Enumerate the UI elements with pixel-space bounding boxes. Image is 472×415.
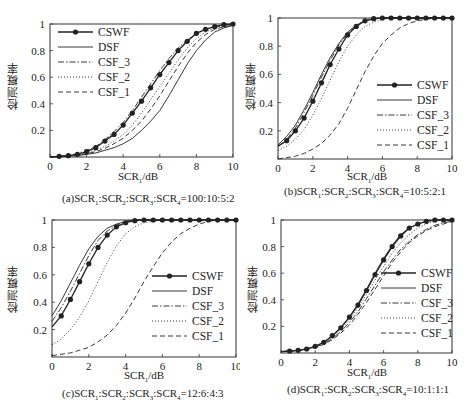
caption-text: =100:10:5:2 <box>181 192 235 204</box>
y-tick-label: 0.6 <box>259 68 273 80</box>
marker-dot <box>121 122 126 127</box>
legend-label: CSWF <box>98 26 129 38</box>
legend: CSWFDSFCSF_3CSF_2CSF_1 <box>377 79 449 151</box>
y-tick-label: 0.8 <box>31 45 45 57</box>
legend-marker <box>392 82 397 87</box>
marker-dot <box>302 116 307 121</box>
y-tick-label: 0.6 <box>33 269 47 281</box>
caption-text: :SCR <box>126 387 150 399</box>
marker-dot <box>215 217 220 222</box>
y-tick-label: 0.4 <box>262 294 276 306</box>
series-cswf <box>50 24 233 157</box>
caption-text: :SCR <box>376 185 400 197</box>
marker-dot <box>415 15 420 20</box>
x-axis-label-b: SCR1/dB <box>347 170 387 185</box>
x-tick-label: 0 <box>275 162 281 174</box>
y-tick-label: 0.2 <box>33 324 47 336</box>
x-tick-label: 8 <box>415 356 421 368</box>
caption-b: (b)SCR1:SCR2:SCR3:SCR4=10:5:2:1 <box>284 185 446 200</box>
legend-label: CSF_2 <box>421 312 453 324</box>
series-csf-1 <box>50 25 233 157</box>
marker-dot <box>449 217 454 222</box>
legend-label: DSF <box>192 285 213 297</box>
caption-text: :SCR <box>153 387 177 399</box>
y-tick-label: 0.6 <box>31 71 45 83</box>
marker-dot <box>390 244 395 249</box>
legend-label: CSF_3 <box>192 300 224 312</box>
marker-dot <box>310 99 315 104</box>
marker-dot <box>233 217 238 222</box>
x-tick-label: 0 <box>49 360 55 372</box>
marker-dot <box>93 145 98 150</box>
x-tick-label: 2 <box>312 356 318 368</box>
marker-dot <box>224 217 229 222</box>
marker-dot <box>372 272 377 277</box>
x-tick-label: 8 <box>196 360 202 372</box>
marker-dot <box>187 217 192 222</box>
series-csf-2 <box>50 24 233 157</box>
marker-dot <box>347 314 352 319</box>
marker-dot <box>380 15 385 20</box>
legend-marker <box>73 29 78 34</box>
x-axis-label-c: SCR1/dB <box>124 369 164 384</box>
marker-dot <box>230 21 235 26</box>
marker-dot <box>284 138 289 143</box>
marker-dot <box>206 217 211 222</box>
caption-c: (c)SCR1:SCR2:SCR3:SCR4=12:6:4:3 <box>62 387 223 402</box>
series-dsf <box>50 25 233 157</box>
marker-dot <box>328 62 333 67</box>
marker-dot <box>105 232 110 237</box>
marker-dot <box>185 39 190 44</box>
marker-dot <box>141 217 146 222</box>
y-axis-label-c: 检测概率 <box>6 265 22 313</box>
x-axis-label-main: SCR <box>347 170 368 182</box>
legend-label: CSF_2 <box>417 124 449 136</box>
legend: CSWFDSFCSF_3CSF_2CSF_1 <box>58 26 130 98</box>
caption-text: =10:5:2:1 <box>403 185 446 197</box>
marker-dot <box>415 221 420 226</box>
x-tick-label: 2 <box>84 160 90 172</box>
marker-dot <box>304 346 309 351</box>
y-tick-label: 0.2 <box>31 124 45 136</box>
marker-dot <box>319 80 324 85</box>
marker-dot <box>355 303 360 308</box>
marker-dot <box>197 217 202 222</box>
x-tick-label: 10 <box>231 360 241 372</box>
marker-dot <box>296 348 301 353</box>
marker-dot <box>336 46 341 51</box>
marker-dot <box>194 31 199 36</box>
marker-dot <box>345 32 350 37</box>
y-tick-label: 0.2 <box>259 125 273 137</box>
y-tick-label: 1 <box>42 214 48 226</box>
marker-dot <box>151 217 156 222</box>
marker-dot <box>86 261 91 266</box>
x-tick-label: 10 <box>228 160 240 172</box>
legend-label: CSF_3 <box>98 56 130 68</box>
caption-text: =10:1:1:1 <box>406 383 449 395</box>
caption-text: :SCR <box>99 387 123 399</box>
caption-text: :SCR <box>351 383 375 395</box>
legend-marker <box>396 270 401 275</box>
x-axis-label-unit: /dB <box>371 366 387 378</box>
marker-dot <box>293 128 298 133</box>
marker-dot <box>398 233 403 238</box>
legend-label: CSWF <box>421 267 452 279</box>
caption-text: (d)SCR <box>287 383 321 395</box>
marker-dot <box>157 72 162 77</box>
y-tick-label: 0.4 <box>31 98 45 110</box>
marker-dot <box>148 85 153 90</box>
marker-dot <box>95 245 100 250</box>
marker-dot <box>406 15 411 20</box>
caption-text: (b)SCR <box>284 185 318 197</box>
legend-label: DSF <box>421 282 442 294</box>
marker-dot <box>397 15 402 20</box>
y-axis-label-a: 检测概率 <box>6 62 22 110</box>
subplot-c: 02468100.20.40.60.81CSWFDSFCSF_3CSF_2CSF… <box>0 205 240 415</box>
y-tick-label: 0.4 <box>33 296 47 308</box>
caption-text: :SCR <box>126 192 150 204</box>
marker-dot <box>102 138 107 143</box>
legend-label: CSF_1 <box>417 139 449 151</box>
marker-dot <box>169 217 174 222</box>
x-tick-label: 0 <box>47 160 53 172</box>
legend: CSWFDSFCSF_3CSF_2CSF_1 <box>152 270 224 342</box>
